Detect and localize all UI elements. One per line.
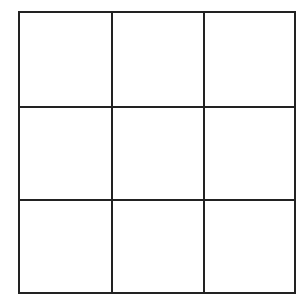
grid-border-right [294,11,296,294]
board-cell-1-1[interactable] [113,108,203,199]
tic-tac-toe-board [18,11,294,293]
board-cell-0-1[interactable] [113,13,203,106]
board-cell-0-2[interactable] [205,13,294,106]
board-cell-2-2[interactable] [205,201,294,292]
grid-border-bottom [18,292,296,294]
board-cell-0-0[interactable] [20,13,111,106]
board-cell-2-0[interactable] [20,201,111,292]
board-cell-1-2[interactable] [205,108,294,199]
board-cell-2-1[interactable] [113,201,203,292]
board-cell-1-0[interactable] [20,108,111,199]
